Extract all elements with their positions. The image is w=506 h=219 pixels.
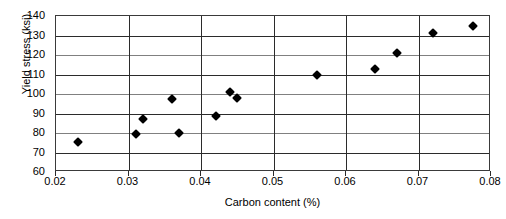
x-tick-mark: [418, 171, 419, 176]
scatter-chart: Yield stress (ksi) 607080901001101201301…: [0, 0, 506, 219]
x-axis-title: Carbon content (%): [55, 196, 490, 208]
x-tick-label: 0.02: [44, 176, 65, 187]
x-tick-label: 0.04: [189, 176, 210, 187]
x-tick-mark: [128, 171, 129, 176]
x-tick-label: 0.05: [262, 176, 283, 187]
x-tick-mark: [200, 171, 201, 176]
x-tick-mark: [490, 171, 491, 176]
x-tick-mark: [273, 171, 274, 176]
x-axis-tick-labels: 0.020.030.040.050.060.070.08: [0, 0, 506, 219]
x-tick-mark: [345, 171, 346, 176]
x-tick-label: 0.07: [407, 176, 428, 187]
x-tick-label: 0.08: [479, 176, 500, 187]
x-tick-label: 0.03: [117, 176, 138, 187]
x-tick-mark: [55, 171, 56, 176]
x-tick-label: 0.06: [334, 176, 355, 187]
